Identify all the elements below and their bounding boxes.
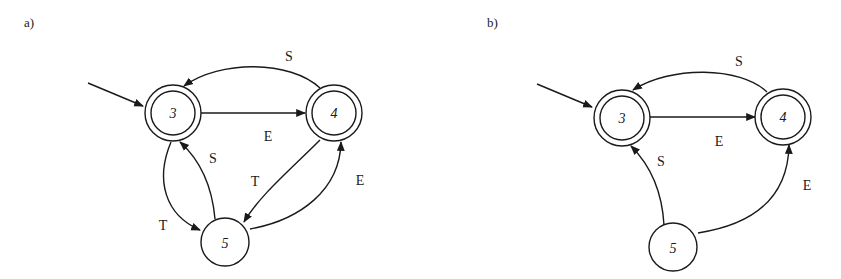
edge-label-S-top: S	[285, 49, 293, 64]
state-4-label: 4	[780, 110, 787, 125]
panel-a: a) 3 4 5 S E	[24, 15, 364, 266]
edge-label-T-left: T	[159, 218, 168, 233]
state-3-a: 3	[145, 85, 201, 141]
edge-5-4-E-b	[698, 145, 789, 233]
state-3-label: 3	[169, 106, 177, 121]
edge-3-5-T-a	[164, 142, 200, 230]
state-4-a: 4	[306, 85, 362, 141]
initial-arrow-b	[537, 84, 592, 107]
edge-label-T-right: T	[251, 174, 260, 189]
edge-label-E-right: E	[356, 173, 365, 188]
state-5-b: 5	[649, 223, 697, 271]
edge-5-4-E-a	[250, 142, 341, 229]
state-5-a: 5	[201, 218, 249, 266]
edge-4-3-S-b	[633, 72, 767, 92]
panel-b-label: b)	[487, 15, 498, 30]
edge-4-3-S-a	[184, 67, 320, 88]
state-4-label: 4	[331, 106, 338, 121]
state-4-b: 4	[755, 89, 811, 145]
panel-b: b) 3 4 5 S E S E	[487, 15, 811, 271]
edge-label-E-mid: E	[264, 129, 273, 144]
panel-a-label: a)	[24, 15, 34, 30]
edge-label-E-mid: E	[715, 134, 724, 149]
initial-arrow-a	[88, 83, 143, 106]
state-3-label: 3	[618, 111, 626, 126]
state-5-label: 5	[222, 236, 229, 251]
edge-label-E-right: E	[803, 178, 812, 193]
edge-label-S-inner: S	[657, 154, 665, 169]
state-3-b: 3	[594, 90, 650, 146]
state-5-label: 5	[670, 241, 677, 256]
edge-label-S-top: S	[735, 54, 743, 69]
edge-label-S-inner: S	[209, 151, 217, 166]
